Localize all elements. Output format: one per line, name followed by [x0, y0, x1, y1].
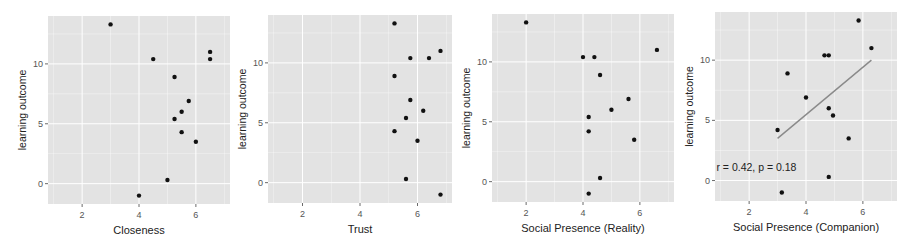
- y-tick-label: 10: [477, 57, 487, 67]
- scatter-figure: 2460510Closenesslearning outcome2460510T…: [0, 0, 918, 248]
- data-point: [586, 115, 590, 119]
- y-tick-label: 10: [253, 58, 263, 68]
- data-point: [404, 116, 408, 120]
- x-tick-label: 6: [415, 209, 420, 219]
- y-tick-label: 5: [258, 118, 263, 128]
- x-tick-label: 2: [300, 209, 305, 219]
- x-tick-label: 2: [80, 210, 85, 220]
- data-point: [592, 55, 596, 59]
- scatter-panel-4: 2460510r = 0.42, p = 0.18Social Presence…: [683, 12, 897, 233]
- x-axis-label: Social Presence (Reality): [521, 222, 645, 234]
- data-point: [831, 113, 835, 117]
- data-point: [137, 193, 141, 197]
- data-point: [208, 57, 212, 61]
- x-tick-label: 2: [524, 208, 529, 218]
- x-tick-label: 4: [357, 209, 362, 219]
- data-point: [846, 136, 850, 140]
- data-point: [208, 50, 212, 54]
- data-point: [775, 128, 779, 132]
- data-point: [632, 138, 636, 142]
- scatter-panel-3: 2460510Social Presence (Reality)learning…: [460, 14, 674, 234]
- data-point: [108, 22, 112, 26]
- data-point: [392, 129, 396, 133]
- data-point: [415, 139, 419, 143]
- data-point: [780, 190, 784, 194]
- x-tick-label: 4: [136, 210, 141, 220]
- data-point: [392, 74, 396, 78]
- data-point: [581, 55, 585, 59]
- data-point: [524, 20, 528, 24]
- x-axis-label: Social Presence (Companion): [733, 221, 879, 233]
- y-tick-label: 0: [38, 179, 43, 189]
- y-axis-label: learning outcome: [16, 70, 28, 151]
- data-point: [822, 53, 826, 57]
- data-point: [427, 56, 431, 60]
- data-point: [869, 46, 873, 50]
- y-tick-label: 5: [482, 117, 487, 127]
- data-point: [785, 71, 789, 75]
- data-point: [172, 75, 176, 79]
- data-point: [598, 73, 602, 77]
- scatter-panel-2: 2460510Trustlearning outcome: [236, 15, 452, 235]
- x-tick-label: 4: [803, 207, 808, 217]
- data-point: [179, 110, 183, 114]
- x-axis-label: Trust: [348, 223, 373, 235]
- data-point: [408, 98, 412, 102]
- data-point: [655, 48, 659, 52]
- y-tick-label: 10: [700, 55, 710, 65]
- data-point: [827, 175, 831, 179]
- data-point: [827, 106, 831, 110]
- data-point: [408, 56, 412, 60]
- x-tick-label: 6: [860, 207, 865, 217]
- data-point: [438, 192, 442, 196]
- y-tick-label: 10: [33, 59, 43, 69]
- correlation-annotation: r = 0.42, p = 0.18: [716, 161, 796, 173]
- data-point: [598, 176, 602, 180]
- y-axis-label: learning outcome: [683, 66, 695, 147]
- data-point: [172, 117, 176, 121]
- x-tick-label: 6: [193, 210, 198, 220]
- x-tick-label: 6: [637, 208, 642, 218]
- data-point: [827, 53, 831, 57]
- data-point: [421, 109, 425, 113]
- x-tick-label: 2: [747, 207, 752, 217]
- data-point: [392, 21, 396, 25]
- scatter-panel-1: 2460510Closenesslearning outcome: [16, 16, 230, 236]
- data-point: [609, 108, 613, 112]
- data-point: [187, 99, 191, 103]
- y-axis-label: learning outcome: [236, 69, 248, 150]
- y-tick-label: 0: [482, 177, 487, 187]
- data-point: [151, 57, 155, 61]
- y-tick-label: 0: [705, 176, 710, 186]
- y-tick-label: 0: [258, 178, 263, 188]
- data-point: [804, 95, 808, 99]
- data-point: [165, 178, 169, 182]
- data-point: [404, 177, 408, 181]
- data-point: [438, 49, 442, 53]
- x-tick-label: 4: [580, 208, 585, 218]
- data-point: [179, 130, 183, 134]
- data-point: [586, 191, 590, 195]
- data-point: [626, 97, 630, 101]
- y-tick-label: 5: [38, 119, 43, 129]
- data-point: [586, 129, 590, 133]
- y-tick-label: 5: [705, 115, 710, 125]
- data-point: [856, 18, 860, 22]
- y-axis-label: learning outcome: [460, 68, 472, 149]
- data-point: [194, 140, 198, 144]
- x-axis-label: Closeness: [113, 224, 165, 236]
